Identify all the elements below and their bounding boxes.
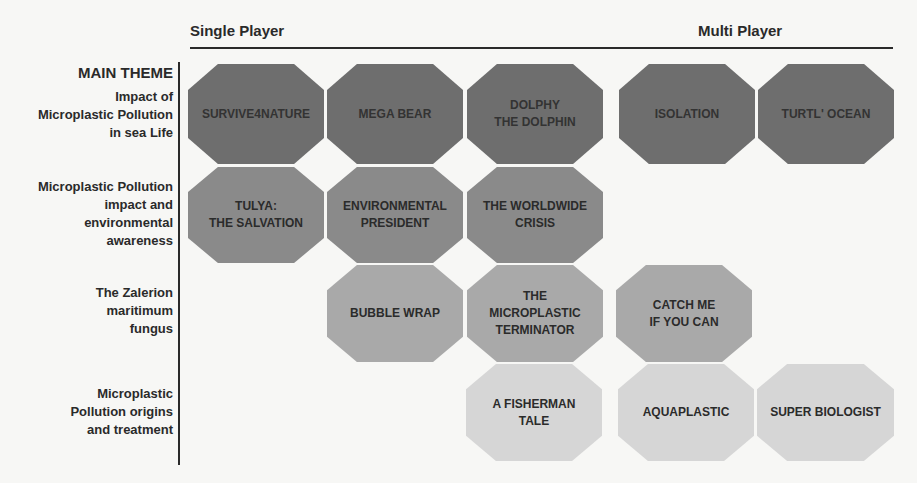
single-player-header: Single Player xyxy=(190,22,284,39)
game-dolphy-the-dolphin: DOLPHY THE DOLPHIN xyxy=(467,64,603,164)
game-survive4nature: SURVIVE4NATURE xyxy=(188,64,324,164)
game-isolation: ISOLATION xyxy=(619,64,755,164)
game-environmental-president: ENVIRONMENTAL PRESIDENT xyxy=(327,167,463,263)
row-label-zalerion-fungus: The Zalerion maritimum fungus xyxy=(96,284,173,338)
main-theme-label: MAIN THEME xyxy=(78,64,173,81)
theme-axis-line xyxy=(178,62,180,465)
game-bubble-wrap: BUBBLE WRAP xyxy=(327,265,463,362)
game-catch-me-if-you-can: CATCH ME IF YOU CAN xyxy=(616,265,752,362)
row-label-origins-treatment: Microplastic Pollution origins and treat… xyxy=(70,385,173,439)
game-aquaplastic: AQUAPLASTIC xyxy=(618,364,754,461)
header-divider xyxy=(190,47,893,49)
game-a-fisherman-tale: A FISHERMAN TALE xyxy=(466,364,602,461)
game-super-biologist: SUPER BIOLOGIST xyxy=(757,364,894,461)
game-the-worldwide-crisis: THE WORLDWIDE CRISIS xyxy=(467,167,603,263)
row-label-awareness: Microplastic Pollution impact and enviro… xyxy=(38,178,173,250)
game-mega-bear: MEGA BEAR xyxy=(327,64,463,164)
game-the-microplastic-terminator: THE MICROPLASTIC TERMINATOR xyxy=(467,265,603,362)
game-tulya-the-salvation: TULYA: THE SALVATION xyxy=(188,167,324,263)
game-turtl-ocean: TURTL' OCEAN xyxy=(758,64,894,164)
row-label-sea-life: Impact of Microplastic Pollution in sea … xyxy=(38,88,173,142)
multi-player-header: Multi Player xyxy=(698,22,782,39)
